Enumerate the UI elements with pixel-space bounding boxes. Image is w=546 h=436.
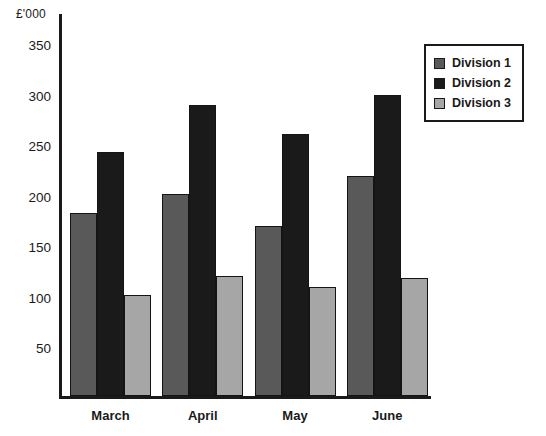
legend-swatch-icon — [434, 98, 445, 109]
bar[interactable] — [216, 276, 243, 396]
bar-chart: £'000 50100150200250300350 MarchAprilMay… — [0, 0, 546, 436]
legend-swatch-icon — [434, 78, 445, 89]
bar[interactable] — [124, 295, 151, 396]
bar[interactable] — [374, 95, 401, 396]
bar[interactable] — [282, 134, 309, 396]
bar-group — [70, 14, 151, 396]
bar[interactable] — [162, 194, 189, 396]
bar-group — [162, 14, 243, 396]
legend-item[interactable]: Division 3 — [434, 93, 511, 113]
legend-label: Division 3 — [452, 96, 511, 110]
x-tick-label: March — [91, 408, 129, 423]
legend-item[interactable]: Division 1 — [434, 53, 511, 73]
bar[interactable] — [347, 176, 374, 396]
legend-item[interactable]: Division 2 — [434, 73, 511, 93]
bars-layer — [62, 14, 431, 399]
y-axis-tick-labels: 50100150200250300350 — [9, 14, 51, 399]
legend-swatch-icon — [434, 58, 445, 69]
y-tick-label: 300 — [11, 88, 51, 103]
bar[interactable] — [189, 105, 216, 396]
x-tick-label: June — [372, 408, 402, 423]
legend: Division 1Division 2Division 3 — [424, 44, 524, 122]
bar[interactable] — [401, 278, 428, 396]
bar[interactable] — [97, 152, 124, 396]
bar-group — [255, 14, 336, 396]
y-tick-label: 150 — [11, 240, 51, 255]
y-tick-label: 200 — [11, 189, 51, 204]
y-tick-label: 350 — [11, 38, 51, 53]
y-tick-label: 50 — [11, 341, 51, 356]
x-axis-tick-labels: MarchAprilMayJune — [62, 408, 431, 432]
bar-group — [347, 14, 428, 396]
y-tick-label: 250 — [11, 139, 51, 154]
bar[interactable] — [70, 213, 97, 396]
x-tick-label: May — [282, 408, 307, 423]
legend-label: Division 2 — [452, 76, 511, 90]
bar[interactable] — [309, 287, 336, 396]
x-tick-label: April — [188, 408, 218, 423]
legend-label: Division 1 — [452, 56, 511, 70]
y-tick-label: 100 — [11, 290, 51, 305]
bar[interactable] — [255, 226, 282, 396]
